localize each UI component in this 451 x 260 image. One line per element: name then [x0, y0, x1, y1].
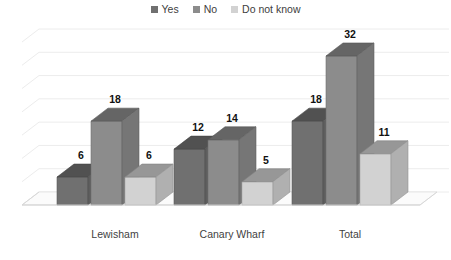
data-label: 18: [310, 93, 322, 105]
legend-swatch-no: [193, 6, 200, 13]
data-label: 18: [109, 93, 121, 105]
legend-item-do-not-know[interactable]: Do not know: [231, 3, 300, 15]
data-label: 6: [78, 149, 84, 161]
data-label: 32: [344, 28, 356, 40]
legend-item-no[interactable]: No: [193, 3, 217, 15]
data-label: 11: [378, 126, 389, 138]
legend-label-no: No: [204, 3, 217, 15]
category-label-lewisham: Lewisham: [91, 228, 138, 240]
chart-legend: Yes No Do not know: [0, 3, 451, 15]
bars: [57, 43, 408, 205]
legend-label-yes: Yes: [162, 3, 179, 15]
legend-item-yes[interactable]: Yes: [151, 3, 179, 15]
data-label: 5: [263, 154, 269, 166]
data-label: 6: [146, 149, 152, 161]
bar-front-face: [292, 121, 323, 205]
bar-front-face: [174, 149, 205, 205]
bar-front-face: [208, 140, 239, 205]
bar-front-face: [91, 121, 122, 205]
bar-front-face: [57, 177, 88, 205]
category-label-canary-wharf: Canary Wharf: [200, 228, 265, 240]
category-label-total: Total: [339, 228, 361, 240]
legend-swatch-yes: [151, 6, 158, 13]
bar-front-face: [326, 56, 357, 205]
plot-area: [0, 22, 451, 227]
legend-swatch-do-not-know: [231, 6, 238, 13]
legend-label-do-not-know: Do not know: [242, 3, 300, 15]
bar-front-face: [360, 154, 391, 205]
data-label: 14: [226, 112, 238, 124]
data-label: 12: [192, 121, 204, 133]
category-axis: Lewisham Canary Wharf Total: [0, 228, 451, 250]
bar-front-face: [242, 182, 273, 205]
plot-canvas: [0, 22, 451, 227]
bar-do-not-know-total[interactable]: [360, 141, 408, 205]
bar-chart: Yes No Do not know 618612145183211 Lewis…: [0, 0, 451, 260]
bar-front-face: [125, 177, 156, 205]
